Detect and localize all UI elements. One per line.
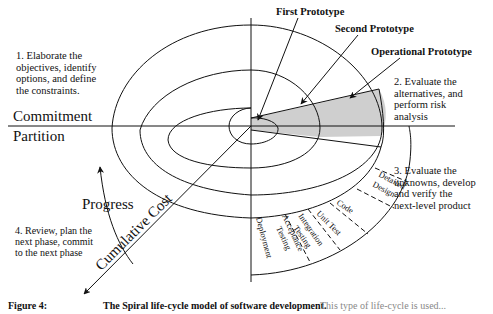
quadrant-2-line: perform risk [394, 99, 463, 111]
progress-label: Progress [82, 196, 134, 213]
commitment-label: Commitment [13, 108, 92, 125]
figure-title: The Spiral life-cycle model of software … [103, 300, 326, 311]
risk-wedge-2 [316, 89, 386, 137]
quadrant-1-line: 1. Elaborate the [16, 50, 96, 62]
quadrant-4-line: 4. Review, plan the [15, 225, 93, 236]
quadrant-2-text: 2. Evaluate the alternatives, and perfor… [394, 76, 463, 122]
quadrant-3-line: and verify the [394, 188, 476, 200]
quadrant-2-line: alternatives, and [394, 88, 463, 100]
quadrant-1-text: 1. Elaborate the objectives, identify op… [16, 50, 96, 96]
quadrant-2-line: 2. Evaluate the [394, 76, 463, 88]
second-prototype-label: Second Prototype [335, 23, 414, 34]
first-prototype-label: First Prototype [276, 6, 344, 17]
quadrant-1-line: objectives, identify [16, 62, 96, 74]
quadrant-4-line: to the next phase [15, 247, 93, 258]
quadrant-3-line: unknowns, develop [394, 177, 476, 189]
figure-description: This type of life-cycle is used... [320, 300, 446, 311]
partition-label: Partition [13, 128, 65, 145]
quadrant-2-line: analysis [394, 111, 463, 123]
quadrant-3-line: 3. Evaluate the [394, 165, 476, 177]
figure-label: Figure 4: [8, 300, 47, 311]
risk-wedge-1 [251, 104, 323, 137]
quadrant-3-text: 3. Evaluate the unknowns, develop and ve… [394, 165, 476, 211]
quadrant-4-line: next phase, commit [15, 236, 93, 247]
spiral-diagram: Detailed Design Code Unit Test Integrati… [0, 0, 493, 314]
quadrant-1-line: options, and define [16, 73, 96, 85]
quadrant-4-text: 4. Review, plan the next phase, commit t… [15, 225, 93, 258]
svg-text:Deployment: Deployment [254, 216, 275, 260]
svg-text:Code: Code [335, 197, 356, 215]
quadrant-3-line: next-level product [394, 200, 476, 212]
quadrant-1-line: the constraints. [16, 85, 96, 97]
operational-prototype-label: Operational Prototype [371, 46, 472, 57]
